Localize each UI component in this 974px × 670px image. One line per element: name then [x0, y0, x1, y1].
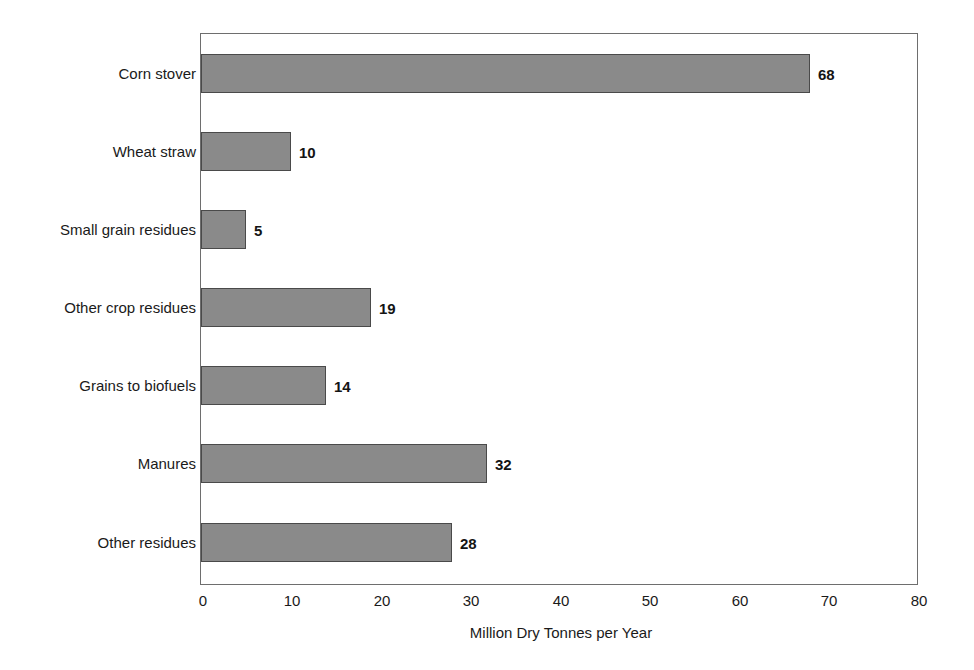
- category-label-text: Grains to biofuels: [79, 377, 196, 394]
- category-label: Small grain residues: [0, 222, 196, 237]
- bar-value-label: 10: [299, 144, 316, 159]
- bar-value-label: 14: [334, 378, 351, 393]
- category-label-text: Other residues: [98, 534, 196, 551]
- x-axis-title-text: Million Dry Tonnes per Year: [470, 625, 652, 640]
- category-label: Grains to biofuels: [0, 378, 196, 393]
- category-label-text: Manures: [138, 455, 196, 472]
- category-label-text: Corn stover: [118, 65, 196, 82]
- category-label-text: Other crop residues: [64, 299, 196, 316]
- bar-chart: Corn stover Wheat straw Small grain resi…: [0, 0, 974, 670]
- bar-small-grain-residues[interactable]: [201, 210, 246, 249]
- bar-value-label: 28: [460, 535, 477, 550]
- category-label: Other crop residues: [0, 300, 196, 315]
- bar-value-label: 68: [818, 66, 835, 81]
- bar-corn-stover[interactable]: [201, 54, 810, 93]
- category-label: Manures: [0, 456, 196, 471]
- category-label: Wheat straw: [0, 144, 196, 159]
- x-tick-label: 40: [541, 593, 581, 608]
- bar-wheat-straw[interactable]: [201, 132, 291, 171]
- category-label: Other residues: [0, 535, 196, 550]
- x-tick-label: 0: [183, 593, 223, 608]
- bar-value-label: 32: [495, 456, 512, 471]
- x-tick-label: 60: [720, 593, 760, 608]
- category-label-text: Wheat straw: [113, 143, 196, 160]
- x-tick-label: 80: [899, 593, 939, 608]
- plot-area: 68 10 5 19 14 32 28: [200, 33, 918, 585]
- x-tick-label: 10: [272, 593, 312, 608]
- x-tick-label: 20: [362, 593, 402, 608]
- bar-manures[interactable]: [201, 444, 487, 483]
- x-tick-label: 30: [451, 593, 491, 608]
- category-label: Corn stover: [0, 66, 196, 81]
- category-label-text: Small grain residues: [60, 221, 196, 238]
- x-tick-label: 70: [809, 593, 849, 608]
- bar-value-label: 19: [379, 300, 396, 315]
- bar-other-crop-residues[interactable]: [201, 288, 371, 327]
- x-axis-title: Million Dry Tonnes per Year: [0, 625, 974, 640]
- bar-value-label: 5: [254, 222, 262, 237]
- bar-grains-to-biofuels[interactable]: [201, 366, 326, 405]
- x-tick-label: 50: [630, 593, 670, 608]
- bar-other-residues[interactable]: [201, 523, 452, 562]
